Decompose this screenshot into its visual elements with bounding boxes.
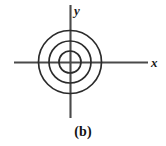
figure-panel: x y (b): [0, 0, 166, 146]
figure-caption: (b): [0, 124, 166, 140]
x-axis-label: x: [150, 55, 158, 70]
y-axis-label: y: [72, 3, 80, 18]
